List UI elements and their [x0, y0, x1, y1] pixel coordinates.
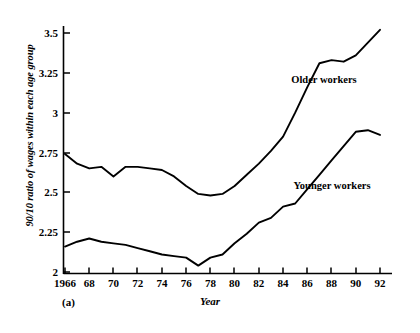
x-tick-label: 78	[205, 277, 216, 289]
x-tick-label: 70	[108, 277, 119, 289]
x-tick-label: 1966	[54, 277, 76, 289]
x-tick-label: 72	[132, 277, 143, 289]
series-line-younger-workers	[65, 130, 380, 265]
x-tick-label: 68	[84, 277, 95, 289]
chart-figure: 2 2.25 2.5 2.75 3 3.25 3.5 90/10 ratio o…	[0, 0, 420, 333]
panel-caption: (a)	[62, 296, 75, 308]
series-label-younger-workers: Younger workers	[293, 180, 370, 191]
x-tick-label: 84	[278, 277, 289, 289]
y-axis-ticks	[64, 33, 71, 272]
x-tick-label: 80	[229, 277, 240, 289]
x-tick-label: 76	[181, 277, 192, 289]
x-tick-label: 74	[156, 277, 167, 289]
x-tick-label: 90	[350, 277, 361, 289]
x-axis-ticks	[65, 268, 380, 274]
x-tick-label: 92	[375, 277, 386, 289]
series-line-older-workers	[65, 30, 380, 196]
series-label-older-workers: Older workers	[291, 74, 356, 85]
x-tick-label: 86	[302, 277, 313, 289]
x-tick-label: 88	[326, 277, 337, 289]
x-tick-label: 82	[253, 277, 264, 289]
